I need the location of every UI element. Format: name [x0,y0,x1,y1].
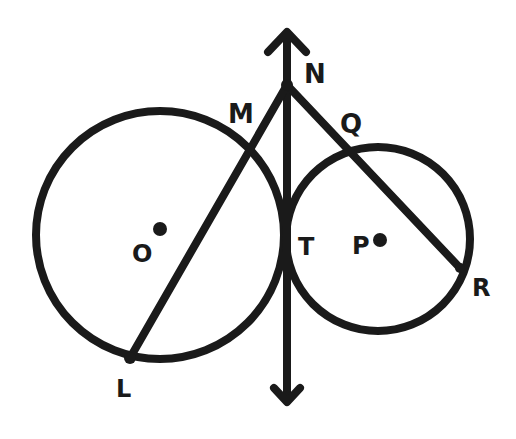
geometry-diagram: N M Q T O P R L [0,0,516,439]
label-t: T [298,233,315,261]
label-p: P [352,232,370,260]
center-o-dot [153,222,167,236]
point-r-dot [455,263,465,273]
label-o: O [132,240,152,268]
label-n: N [304,59,326,89]
label-r: R [472,274,490,302]
point-n-dot [281,79,293,91]
point-l-dot [124,352,136,364]
segment-nl [130,85,287,358]
label-m: M [228,99,254,129]
label-l: L [116,375,131,403]
label-q: Q [340,109,362,139]
center-p-dot [373,233,387,247]
